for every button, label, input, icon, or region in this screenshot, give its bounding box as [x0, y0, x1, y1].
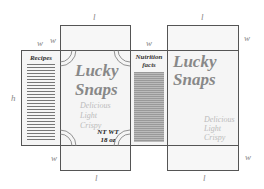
corner-arc-decorations [0, 0, 264, 189]
